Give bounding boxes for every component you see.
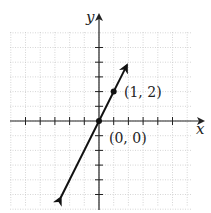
point-origin xyxy=(96,118,102,124)
point-label-origin: (0, 0) xyxy=(109,130,147,146)
x-axis-label: x xyxy=(196,120,205,138)
y-axis-label: y xyxy=(85,8,95,26)
coordinate-graph: y x (1, 2) (0, 0) xyxy=(0,0,211,213)
point-1-2 xyxy=(111,89,117,95)
point-label-1-2: (1, 2) xyxy=(124,84,162,100)
